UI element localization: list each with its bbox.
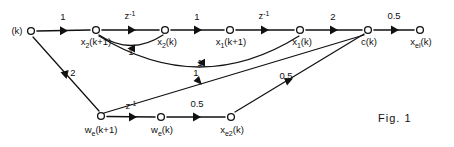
node-x2kp1[interactable]	[93, 27, 100, 34]
node-wekp1[interactable]	[98, 113, 105, 120]
node-label-xe2k: xe2(k)	[220, 124, 244, 137]
gain-label-e10: 1	[193, 67, 198, 78]
gain-label-e4: z-1	[259, 10, 270, 21]
node-label-x2k: x2(k)	[157, 36, 177, 49]
gain-label-e3: 1	[194, 11, 199, 22]
node-x1k[interactable]	[297, 27, 304, 34]
gain-label-e6: 0.5	[387, 10, 400, 21]
edge-wekp1-to-wek	[107, 113, 155, 122]
node-xelk[interactable]	[417, 27, 424, 34]
edge-wek-to-xe2k	[167, 113, 225, 122]
node-wek[interactable]	[158, 114, 165, 121]
node-xe2k[interactable]	[228, 114, 235, 121]
gain-label-e5: 2	[330, 11, 335, 22]
node-label-xelk: xel(k)	[410, 36, 431, 49]
edge-x1kp1-to-x1k	[236, 26, 294, 35]
edge-x1k-to-ck	[306, 26, 362, 35]
gain-label-e2: z-1	[125, 10, 136, 21]
signal-flow-graph-figure: (k) x2(k+1) x2(k) x1(k+1) x1(k) c(k) xel…	[0, 0, 454, 147]
node-x2k[interactable]	[162, 27, 169, 34]
node-label-wekp1: we(k+1)	[84, 124, 118, 137]
gain-label-e12: 0.5	[190, 98, 203, 109]
gain-label-e13: 0.5	[279, 70, 292, 81]
node-label-x1k: x1(k)	[292, 36, 312, 49]
gain-label-e11: z-1	[126, 100, 137, 111]
node-label-u: (k)	[11, 25, 22, 36]
node-label-ck: c(k)	[361, 36, 377, 47]
edge-u-to-x2kp1	[37, 26, 90, 35]
gain-label-e7: 1	[128, 46, 133, 57]
edge-x2k-to-x1kp1	[171, 26, 224, 35]
edge-ck-to-xelk	[374, 26, 414, 35]
figure-caption: Fig. 1	[378, 112, 412, 124]
node-x1kp1[interactable]	[227, 27, 234, 34]
node-ck[interactable]	[365, 27, 372, 34]
node-label-x1kp1: x1(k+1)	[216, 36, 247, 49]
node-u[interactable]	[28, 28, 35, 35]
gain-label-e9: 2	[70, 67, 75, 78]
node-label-x2kp1: x2(k+1)	[81, 36, 112, 49]
node-label-wek: we(k)	[150, 124, 173, 137]
gain-label-e1: 1	[60, 11, 65, 22]
signal-flow-graph-canvas: (k) x2(k+1) x2(k) x1(k+1) x1(k) c(k) xel…	[0, 0, 454, 147]
edge-x2kp1-to-x2k	[102, 26, 159, 35]
